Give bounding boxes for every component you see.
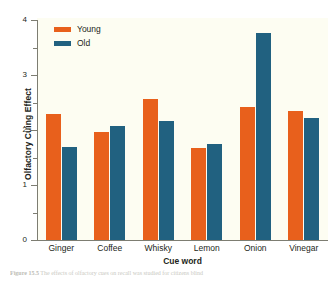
legend-swatch-old: [54, 41, 71, 46]
bar-vinegar-young: [288, 111, 303, 240]
bar-whisky-young: [143, 99, 158, 240]
bar-coffee-old: [110, 126, 125, 240]
legend-label-young: Young: [77, 25, 101, 34]
bar-lemon-young: [191, 148, 206, 240]
bar-whisky-old: [159, 121, 174, 240]
y-tick-minor: [33, 213, 38, 214]
bar-onion-young: [240, 107, 255, 240]
bar-coffee-young: [94, 132, 109, 240]
caption-text: The effects of olfactory cues on recall …: [40, 270, 203, 276]
y-tick-label: 4: [1, 16, 27, 24]
bar-vinegar-old: [304, 118, 319, 240]
x-axis-title: Cue word: [37, 256, 328, 266]
y-tick-major: [31, 20, 38, 21]
y-tick-minor: [33, 48, 38, 49]
bar-ginger-old: [62, 147, 77, 241]
bar-ginger-young: [46, 114, 61, 241]
legend-swatch-young: [54, 27, 71, 32]
x-tick-label-coffee: Coffee: [86, 244, 135, 253]
x-tick-label-vinegar: Vinegar: [280, 244, 329, 253]
y-axis-title: Olfactory Cuing Effect: [23, 54, 33, 214]
x-tick-label-lemon: Lemon: [183, 244, 232, 253]
bar-onion-old: [256, 33, 271, 240]
x-tick-label-ginger: Ginger: [37, 244, 86, 253]
legend: YoungOld: [54, 24, 101, 52]
x-tick-label-onion: Onion: [231, 244, 280, 253]
x-axis-line: [37, 240, 328, 241]
caption-figure-number: Figure 15.5: [10, 270, 39, 276]
y-tick-minor: [33, 158, 38, 159]
y-tick-minor: [33, 103, 38, 104]
y-tick-major: [31, 240, 38, 241]
figure-caption: Figure 15.5 The effects of olfactory cue…: [10, 270, 328, 282]
bar-lemon-old: [207, 144, 222, 240]
figure-container: 01234 Olfactory Cuing Effect GingerCoffe…: [0, 0, 336, 284]
legend-label-old: Old: [77, 39, 90, 48]
y-tick-label: 0: [1, 236, 27, 244]
legend-item-old: Old: [54, 38, 101, 49]
legend-item-young: Young: [54, 24, 101, 35]
x-tick-label-whisky: Whisky: [134, 244, 183, 253]
